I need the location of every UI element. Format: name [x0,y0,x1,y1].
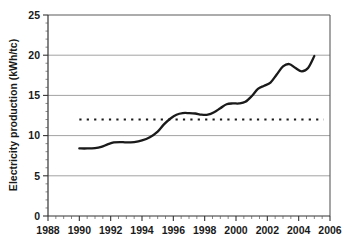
y-tick-labels: 0 5 10 15 20 25 [28,9,40,222]
x-tick-label: 1992 [99,224,123,236]
x-tick-label: 2004 [287,224,311,236]
x-tick-label: 1990 [68,224,92,236]
plot-background [48,15,330,216]
x-tick-label: 1994 [130,224,154,236]
x-tick-label: 1988 [36,224,60,236]
y-major-ticks [43,15,48,216]
y-tick-label: 25 [28,9,40,21]
x-tick-label: 2002 [256,224,280,236]
x-tick-label: 2006 [318,224,342,236]
y-tick-label: 20 [28,49,40,61]
chart-figure: 0 5 10 15 20 25 1988 1990 1992 1994 1996… [0,0,355,248]
y-tick-label: 0 [34,210,40,222]
y-tick-label: 15 [28,89,40,101]
chart-plot: 0 5 10 15 20 25 1988 1990 1992 1994 1996… [0,0,355,248]
x-tick-label: 1996 [162,224,186,236]
y-tick-label: 5 [34,170,40,182]
x-tick-labels: 1988 1990 1992 1994 1996 1998 2000 2002 … [36,224,342,236]
y-tick-label: 10 [28,129,40,141]
y-axis-title: Electricity production (kWh/tc) [7,39,19,191]
x-tick-label: 2000 [224,224,248,236]
x-tick-label: 1998 [193,224,217,236]
